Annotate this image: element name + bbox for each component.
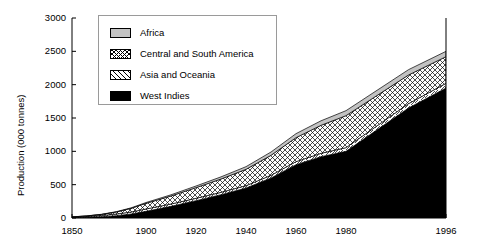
legend-item: Asia and Oceania (110, 68, 215, 81)
legend-item-label: Asia and Oceania (140, 70, 215, 80)
legend-swatch-icon (110, 91, 131, 101)
legend-item-label: Africa (140, 28, 164, 38)
legend-swatch-icon (110, 49, 131, 59)
legend-item-label: Central and South America (140, 49, 254, 59)
legend-item-label: West Indies (140, 91, 189, 101)
legend-item: West Indies (110, 89, 189, 102)
legend-item: Africa (110, 26, 164, 39)
legend-swatch-icon (110, 70, 131, 80)
stacked-area-chart: Production (000 tonnes) 0500100015002000… (0, 0, 480, 251)
chart-legend: AfricaCentral and South AmericaAsia and … (98, 15, 277, 105)
legend-swatch-icon (110, 28, 131, 38)
legend-item: Central and South America (110, 47, 254, 60)
